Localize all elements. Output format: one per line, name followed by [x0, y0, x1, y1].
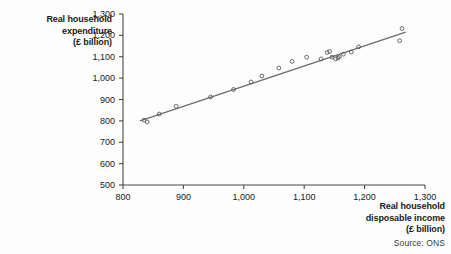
data-point — [145, 120, 149, 124]
trend-line — [140, 32, 406, 121]
trend-line-segment — [140, 32, 406, 121]
axis-lines — [123, 14, 425, 185]
y-axis-tick-label: 500 — [79, 180, 115, 190]
chart-figure: Real householdexpenditure(£ billion) 500… — [0, 0, 451, 254]
y-axis-tick-label: 1,000 — [79, 73, 115, 83]
y-axis-tick-label: 700 — [79, 137, 115, 147]
source-note: Source: ONS — [255, 238, 445, 248]
data-point — [400, 27, 404, 31]
x-axis-ticks — [123, 185, 425, 189]
y-axis-tick-label: 1,200 — [79, 30, 115, 40]
y-axis-tick-label: 800 — [79, 116, 115, 126]
x-axis-title: Real householddisposable income(£ billio… — [255, 201, 445, 236]
data-point — [290, 60, 294, 64]
data-point — [174, 104, 178, 108]
data-point — [277, 66, 281, 70]
data-point — [398, 39, 402, 43]
y-axis-ticks — [119, 14, 123, 185]
data-point — [260, 74, 264, 78]
data-point — [334, 57, 338, 61]
y-axis-tick-label: 600 — [79, 159, 115, 169]
y-axis-tick-label: 1,100 — [79, 52, 115, 62]
y-axis-tick-label: 1,300 — [79, 9, 115, 19]
y-axis-tick-label: 900 — [79, 95, 115, 105]
x-axis-tick-label: 900 — [163, 192, 203, 202]
data-points — [142, 27, 404, 124]
x-axis-tick-label: 800 — [103, 192, 143, 202]
data-point — [305, 55, 309, 59]
